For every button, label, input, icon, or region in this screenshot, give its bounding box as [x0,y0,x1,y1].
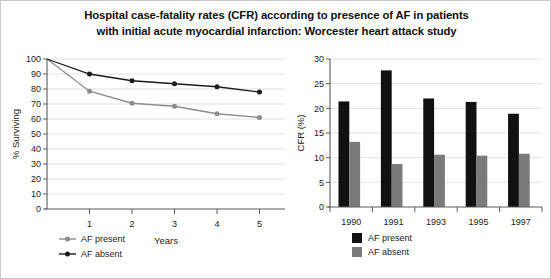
cfr-bar-panel: 05101520253019901991199319951997CFR (%)A… [292,49,550,277]
y-axis-title: CFR (%) [295,115,306,152]
legend-swatch-0 [352,233,362,243]
y-tick-label: 0 [36,204,41,214]
y-tick-label: 30 [314,54,324,64]
survival-curve-panel: 010203040506070809010012345Years% Surviv… [7,49,292,277]
bar-1995-1 [476,156,487,207]
legend-label-0: AF present [81,234,126,244]
data-point [87,89,92,94]
bar-1990-0 [338,101,349,207]
data-point [87,72,92,77]
y-tick-label: 20 [31,174,41,184]
legend-label-0: AF present [368,233,413,243]
figure-container: Hospital case-fatality rates (CFR) accor… [0,0,551,279]
bar-1991-0 [381,70,392,207]
x-tick-label: 1990 [341,217,361,227]
x-tick-label: 1993 [426,217,446,227]
bar-1995-0 [466,102,477,207]
survival-curve-chart: 010203040506070809010012345Years% Surviv… [7,49,292,277]
legend-marker-0 [65,237,70,242]
figure-title-line-2: with initial acute myocardial infarction… [1,24,551,40]
bar-1991-1 [392,164,403,207]
bar-1997-1 [519,154,530,207]
x-tick-label: 2 [129,219,134,229]
data-point [215,111,220,116]
data-point [130,101,135,106]
figure-title-line-1: Hospital case-fatality rates (CFR) accor… [1,8,551,24]
y-tick-label: 15 [314,128,324,138]
bar-1990-1 [349,142,360,207]
x-tick-label: 1991 [384,217,404,227]
y-tick-label: 100 [26,54,41,64]
legend-marker-1 [65,252,70,257]
x-tick-label: 1995 [468,217,488,227]
cfr-bar-chart: 05101520253019901991199319951997CFR (%)A… [292,49,550,277]
y-tick-label: 30 [31,159,41,169]
series-line-1 [47,59,260,92]
bar-1997-0 [508,114,519,207]
bar-1993-0 [423,98,434,207]
data-point [257,115,262,120]
y-tick-label: 90 [31,69,41,79]
data-point [215,84,220,89]
y-tick-label: 5 [319,178,324,188]
y-tick-label: 80 [31,84,41,94]
y-axis-title: % Surviving [10,109,21,159]
y-tick-label: 0 [319,202,324,212]
y-tick-label: 60 [31,114,41,124]
y-tick-label: 10 [31,189,41,199]
x-axis-title: Years [154,235,178,246]
x-tick-label: 5 [257,219,262,229]
y-tick-label: 20 [314,104,324,114]
y-tick-label: 50 [31,129,41,139]
x-tick-label: 1997 [511,217,531,227]
legend-swatch-1 [352,247,362,257]
y-tick-label: 70 [31,99,41,109]
y-tick-label: 25 [314,79,324,89]
figure-title: Hospital case-fatality rates (CFR) accor… [1,8,551,39]
bar-1993-1 [434,155,445,207]
data-point [130,78,135,83]
data-point [172,104,177,109]
data-point [257,90,262,95]
data-point [172,81,177,86]
y-tick-label: 40 [31,144,41,154]
legend-label-1: AF absent [81,249,123,259]
x-tick-label: 3 [172,219,177,229]
y-tick-label: 10 [314,153,324,163]
x-tick-label: 1 [87,219,92,229]
x-tick-label: 4 [214,219,219,229]
legend-label-1: AF absent [368,247,410,257]
